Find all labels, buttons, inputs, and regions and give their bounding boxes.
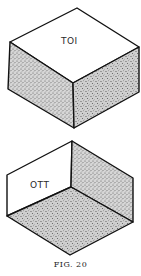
figure-caption: FIG. 20 <box>0 260 141 269</box>
closed-box-label: TOI <box>61 36 78 46</box>
open-box-label: OTT <box>30 180 49 190</box>
closed-box <box>8 8 139 128</box>
figure-20: TOI OTT FIG. 20 <box>0 0 141 276</box>
open-box-interior <box>7 141 133 255</box>
